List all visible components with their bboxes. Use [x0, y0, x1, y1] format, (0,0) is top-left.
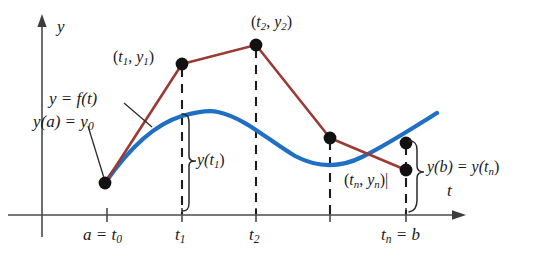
tick-label-pre: a = t — [83, 225, 116, 244]
brace-ybtn — [409, 141, 424, 212]
brace-label-post: ) — [494, 158, 499, 175]
label-t2y2: (t2, y2) — [251, 14, 292, 32]
paren-close: )| — [380, 171, 389, 188]
y-axis-label: y — [57, 18, 65, 35]
initial-value-main: y(a) = y — [33, 112, 88, 131]
tick-label-t2: t2 — [249, 226, 260, 246]
tick-label-sub: 1 — [180, 233, 186, 246]
tick-label-post: = b — [392, 225, 420, 244]
paren-close: ) — [287, 13, 292, 30]
curve-equation-label: y = f(t) — [49, 90, 97, 107]
label-tnyn: (tn, yn)| — [344, 172, 388, 190]
point-tn — [400, 164, 413, 177]
brace-label-pre: y(t — [197, 151, 214, 168]
brace-label-pre: y(b) = y(t — [427, 158, 488, 175]
point-t2 — [250, 39, 263, 52]
label-t1y1: (t1, y1) — [113, 49, 154, 67]
leader-initial-value — [88, 126, 104, 178]
tick-label-sub: 0 — [116, 233, 122, 246]
paren-close: ) — [149, 48, 154, 65]
initial-value-label: y(a) = y0 — [33, 113, 94, 133]
brace-label-ybtn: y(b) = y(tn) — [427, 159, 499, 177]
tick-label-sub: 2 — [254, 233, 260, 246]
brace-label-yt1: y(t1) — [197, 152, 225, 170]
brace-yt1 — [182, 114, 196, 211]
tick-label-t0: a = t0 — [83, 226, 122, 246]
brace-label-post: ) — [219, 151, 224, 168]
t-axis-label: t — [447, 182, 452, 199]
euler-method-figure: y t y = f(t) y(a) = y0 (t1, y1) (t2, y2)… — [0, 0, 548, 267]
point-t1 — [176, 58, 189, 71]
point-t3 — [324, 132, 337, 145]
tick-label-tn: tn = b — [381, 226, 420, 246]
point-t0 — [99, 177, 112, 190]
t-axis-arrowhead — [452, 210, 466, 220]
tick-label-t1: t1 — [175, 226, 186, 246]
point-tn-blue — [400, 137, 413, 150]
y-axis-arrowhead — [37, 14, 46, 27]
initial-value-sub: 0 — [88, 120, 94, 133]
